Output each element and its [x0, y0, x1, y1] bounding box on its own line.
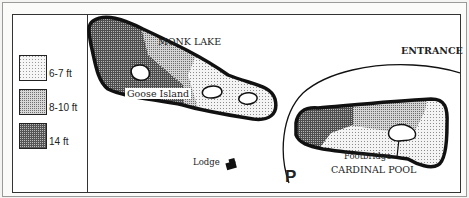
- entrance-label: ENTRANCE: [401, 45, 463, 56]
- island: [131, 65, 149, 80]
- goose-island-label: Goose Island: [125, 88, 191, 99]
- building-icon: [225, 158, 237, 170]
- goose-island: [202, 86, 221, 98]
- lodge-label: Lodge: [193, 157, 220, 167]
- cardinal-island: [389, 125, 416, 141]
- cardinal-pool-label: CARDINAL POOL: [331, 164, 416, 175]
- footbridge-label: Footbridge: [344, 151, 391, 161]
- map-frame: 6-7 ft 8-10 ft 1: [12, 14, 461, 193]
- parking-icon: P: [285, 167, 296, 187]
- monk-lake-label: MONK LAKE: [158, 36, 221, 47]
- island: [239, 93, 257, 104]
- monk-lake-depths: [73, 15, 293, 135]
